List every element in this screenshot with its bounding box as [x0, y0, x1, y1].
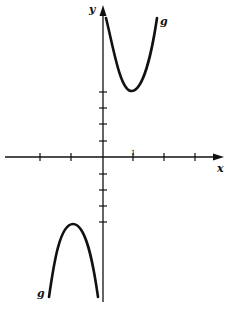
- x-tick-label-1: 1: [131, 149, 135, 157]
- x-axis-arrow-icon: [213, 154, 224, 161]
- function-graph: x 1 y g g: [0, 0, 230, 317]
- curve-g-upper: [106, 18, 157, 91]
- curve-label-g-lower: g: [37, 287, 45, 300]
- x-axis: x 1: [5, 149, 224, 175]
- y-axis-label: y: [88, 3, 97, 16]
- y-axis-arrow-icon: [100, 5, 107, 16]
- curve-label-g-upper: g: [160, 15, 168, 28]
- curve-g-lower: [49, 224, 98, 297]
- x-axis-label: x: [216, 162, 224, 175]
